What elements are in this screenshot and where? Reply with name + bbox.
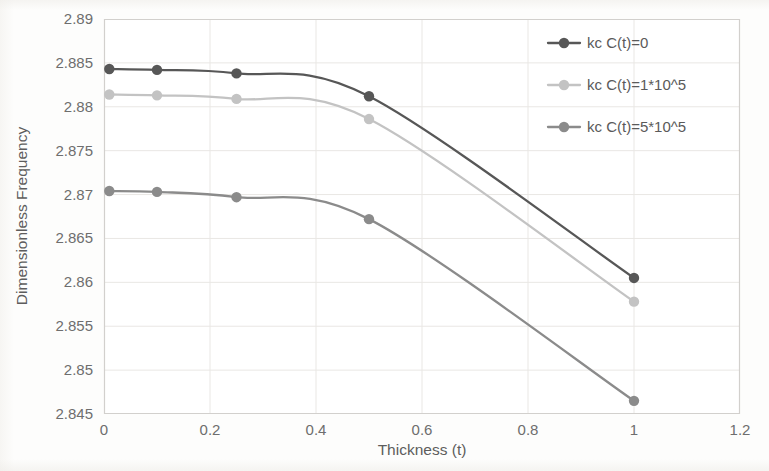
data-point-marker	[629, 396, 639, 406]
data-point-marker	[231, 94, 241, 104]
legend-marker-swatch	[559, 122, 569, 132]
x-axis-title: Thickness (t)	[378, 441, 467, 458]
y-axis-title: Dimensionless Frequency	[13, 127, 30, 306]
y-tick-label: 2.89	[64, 10, 93, 27]
y-tick-label: 2.87	[64, 186, 93, 203]
data-point-marker	[152, 65, 162, 75]
y-tick-label: 2.86	[64, 273, 93, 290]
data-point-marker	[629, 273, 639, 283]
y-tick-label: 2.845	[55, 405, 93, 422]
data-point-marker	[104, 89, 114, 99]
data-point-marker	[104, 186, 114, 196]
x-tick-label: 0.4	[306, 421, 327, 438]
legend-label: kc C(t)=1*10^5	[587, 76, 686, 93]
y-tick-label: 2.88	[64, 98, 93, 115]
y-tick-label: 2.865	[55, 229, 93, 246]
line-chart: 2.8452.852.8552.862.8652.872.8752.882.88…	[0, 0, 769, 471]
data-point-marker	[231, 68, 241, 78]
y-tick-label: 2.885	[55, 54, 93, 71]
legend-label: kc C(t)=0	[587, 34, 648, 51]
x-tick-label: 1	[630, 421, 638, 438]
x-tick-label: 0.6	[412, 421, 433, 438]
y-tick-label: 2.875	[55, 142, 93, 159]
data-point-marker	[152, 187, 162, 197]
data-point-marker	[231, 192, 241, 202]
data-point-marker	[364, 91, 374, 101]
data-point-marker	[629, 296, 639, 306]
x-tick-label: 0.2	[200, 421, 221, 438]
x-tick-label: 0	[100, 421, 108, 438]
x-tick-label: 1.2	[730, 421, 751, 438]
data-point-marker	[104, 64, 114, 74]
data-point-marker	[152, 90, 162, 100]
legend-marker-swatch	[559, 38, 569, 48]
legend-marker-swatch	[559, 80, 569, 90]
y-tick-labels: 2.8452.852.8552.862.8652.872.8752.882.88…	[55, 10, 93, 422]
data-point-marker	[364, 214, 374, 224]
chart-screenshot: 2.8452.852.8552.862.8652.872.8752.882.88…	[0, 0, 769, 471]
legend-label: kc C(t)=5*10^5	[587, 118, 686, 135]
y-tick-label: 2.85	[64, 361, 93, 378]
data-point-marker	[364, 114, 374, 124]
x-tick-label: 0.8	[518, 421, 539, 438]
y-tick-label: 2.855	[55, 317, 93, 334]
x-tick-labels: 00.20.40.60.811.2	[100, 421, 751, 438]
